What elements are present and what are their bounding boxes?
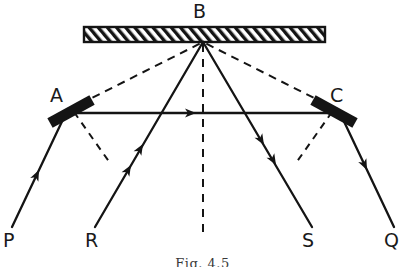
arrowhead-b-to-s-upper [255,133,268,147]
arrowhead-c-to-q [358,158,371,172]
ray-diagram [0,0,405,267]
arrowhead-r-to-b-lower [122,163,135,177]
arrowhead-r-to-b-upper [134,142,147,156]
label-b: B [193,2,206,21]
label-q: Q [384,231,399,250]
dashed-construction-lines [74,42,332,235]
dashed-normal-at-a [74,112,110,163]
label-s: S [302,231,314,250]
ray-arrowheads [30,109,371,182]
label-r: R [85,231,98,250]
label-c: C [330,86,343,105]
mirror-b [84,27,325,42]
dashed-normal-at-c [296,112,332,163]
label-a: A [50,86,63,105]
arrowhead-p-to-a [30,168,43,182]
label-p: P [3,231,15,250]
figure-caption: Fig. 4.5 [0,256,405,267]
figure-canvas: B A C P R S Q Fig. 4.5 [0,0,405,267]
